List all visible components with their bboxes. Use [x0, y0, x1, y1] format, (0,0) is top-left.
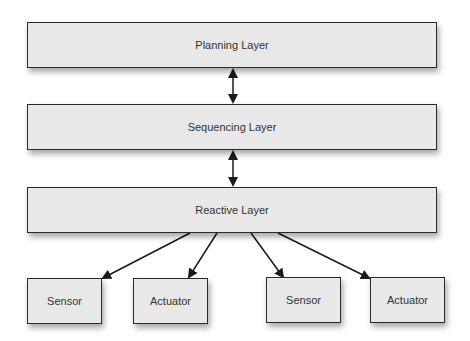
actuator-label-1: Actuator	[150, 295, 191, 307]
reactive-layer-box: Reactive Layer	[27, 187, 437, 233]
arrow-reactive-sensor-2	[251, 233, 283, 277]
sensor-box-2: Sensor	[266, 277, 341, 323]
actuator-box-1: Actuator	[133, 278, 208, 324]
sensor-label-2: Sensor	[286, 294, 321, 306]
arrow-reactive-actuator-2	[278, 233, 369, 278]
actuator-box-2: Actuator	[370, 277, 445, 323]
sensor-label-1: Sensor	[47, 295, 82, 307]
sensor-box-1: Sensor	[27, 278, 102, 324]
reactive-layer-label: Reactive Layer	[195, 204, 268, 216]
arrow-reactive-actuator-1	[189, 233, 217, 277]
actuator-label-2: Actuator	[387, 294, 428, 306]
planning-layer-box: Planning Layer	[27, 22, 437, 68]
planning-layer-label: Planning Layer	[195, 39, 268, 51]
sequencing-layer-label: Sequencing Layer	[188, 121, 277, 133]
sequencing-layer-box: Sequencing Layer	[27, 104, 437, 150]
arrow-reactive-sensor-1	[103, 233, 190, 278]
